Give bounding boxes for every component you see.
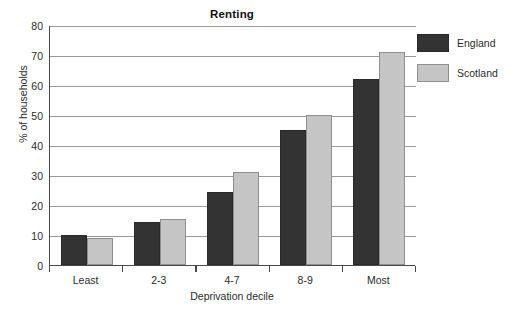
chart-figure: Renting % of households Deprivation deci… xyxy=(0,0,528,311)
legend-label-scotland: Scotland xyxy=(457,67,498,79)
bar-scotland xyxy=(160,219,186,266)
x-axis-tick-label: Most xyxy=(338,274,418,286)
plot-area xyxy=(49,26,415,266)
bar-group xyxy=(280,25,332,265)
x-axis-tick-mark xyxy=(122,266,123,272)
y-axis-tick-label: 20 xyxy=(3,201,43,211)
x-axis-tick-label: 4-7 xyxy=(192,274,272,286)
legend-swatch-scotland-icon xyxy=(417,64,449,82)
x-axis-tick-label: 2-3 xyxy=(119,274,199,286)
y-axis-tick-label: 10 xyxy=(3,231,43,241)
y-axis-tick-label: 60 xyxy=(3,81,43,91)
bar-england xyxy=(280,130,306,265)
bar-scotland xyxy=(233,172,259,265)
bar-group xyxy=(61,25,113,265)
legend-item-scotland: Scotland xyxy=(417,58,525,88)
x-axis-tick-mark xyxy=(415,266,416,272)
y-axis-tick-label: 0 xyxy=(3,261,43,271)
x-axis-tick-mark xyxy=(195,266,196,272)
x-axis-tick-label: Least xyxy=(46,274,126,286)
bar-group xyxy=(207,25,259,265)
x-axis-tick-mark xyxy=(49,266,50,272)
bar-scotland xyxy=(306,115,332,265)
legend-swatch-england-icon xyxy=(417,34,449,52)
y-axis-tick-label: 30 xyxy=(3,171,43,181)
chart-legend: England Scotland xyxy=(417,28,525,88)
bar-scotland xyxy=(379,52,405,265)
legend-item-england: England xyxy=(417,28,525,58)
bar-england xyxy=(353,79,379,265)
chart-title: Renting xyxy=(49,8,415,20)
y-axis-tick-label: 40 xyxy=(3,141,43,151)
bar-england xyxy=(207,192,233,266)
x-axis-label: Deprivation decile xyxy=(49,290,415,302)
bar-group xyxy=(134,25,186,265)
x-axis-tick-mark xyxy=(269,266,270,272)
y-axis-tick-label: 50 xyxy=(3,111,43,121)
bar-england xyxy=(134,222,160,266)
bar-england xyxy=(61,235,87,265)
y-axis-tick-label: 80 xyxy=(3,21,43,31)
bar-scotland xyxy=(87,238,113,265)
x-axis-tick-label: 8-9 xyxy=(265,274,345,286)
bar-group xyxy=(353,25,405,265)
legend-label-england: England xyxy=(457,37,496,49)
x-axis-tick-mark xyxy=(342,266,343,272)
y-axis-tick-label: 70 xyxy=(3,51,43,61)
